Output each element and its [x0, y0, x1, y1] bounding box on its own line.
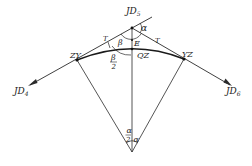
label-alpha-half-den: 2 — [125, 136, 131, 144]
label-t-right: T — [155, 37, 161, 45]
label-jd6: JD6 — [224, 86, 241, 97]
arrow-jd6-icon — [224, 79, 233, 87]
curve-diagram-svg: JD5 α T T β E QZ β 2 ZY YZ JD4 JD6 α 2 α — [0, 0, 252, 166]
label-jd5: JD5 — [124, 6, 141, 17]
label-qz: QZ — [137, 51, 150, 60]
label-jd4: JD4 — [12, 86, 29, 97]
label-alpha-half-num: α — [127, 126, 133, 135]
tangent-tick-left — [108, 42, 110, 48]
label-beta-half-den: 2 — [111, 63, 117, 71]
radius-right — [132, 59, 184, 152]
label-beta-half-num: β — [110, 53, 116, 62]
label-zy: ZY — [69, 51, 82, 60]
circular-curve — [77, 49, 184, 60]
tangent-line-left — [30, 28, 132, 85]
arrow-jd4-icon — [28, 79, 38, 86]
point-qz — [131, 48, 134, 51]
label-beta: β — [117, 38, 123, 47]
label-e: E — [133, 39, 140, 48]
point-jd5 — [131, 27, 134, 30]
radius-left — [77, 60, 132, 152]
curve-diagram: JD5 α T T β E QZ β 2 ZY YZ JD4 JD6 α 2 α — [0, 0, 252, 166]
label-yz: YZ — [182, 50, 193, 59]
label-alpha-deflection: α — [141, 23, 147, 33]
label-center-alpha: α — [134, 135, 140, 144]
